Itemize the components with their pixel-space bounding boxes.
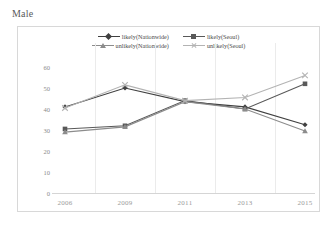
chart-series-svg [18, 27, 321, 213]
data-point-marker [303, 82, 308, 87]
plot-area: 010203040506020062009201120132015 [18, 27, 321, 213]
chart-frame: likely(Nationwide) likely(Seoul) unlikel… [17, 26, 320, 212]
series-likelynationwide [62, 85, 307, 127]
series-unlikelyseoul [62, 73, 308, 111]
page-title: Male [12, 8, 33, 19]
series-line [65, 84, 305, 129]
data-point-marker [302, 73, 308, 79]
data-point-marker [302, 122, 307, 127]
series-likelyseoul [63, 82, 308, 132]
